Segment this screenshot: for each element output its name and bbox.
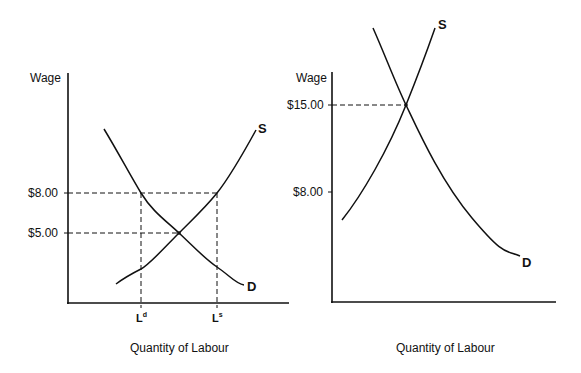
left-demand-curve <box>104 129 244 285</box>
left-x-axis-label: Quantity of Labour <box>130 341 229 355</box>
right-demand-curve <box>373 28 520 256</box>
right-tick-8: $8.00 <box>293 185 323 199</box>
left-demand-label: D <box>247 279 256 294</box>
left-ld-label: Ld <box>136 311 147 324</box>
left-supply-label: S <box>258 121 267 136</box>
right-x-axis-label: Quantity of Labour <box>396 341 495 355</box>
left-ls-label: Ls <box>212 311 223 324</box>
left-supply-curve <box>116 130 256 284</box>
right-supply-label: S <box>438 17 447 32</box>
left-tick-5: $5.00 <box>28 226 58 240</box>
right-tick-15: $15.00 <box>287 98 324 112</box>
right-chart: Wage $15.00 $8.00 S D Quantity of Labour <box>287 17 556 355</box>
right-supply-curve <box>342 28 435 220</box>
left-chart: Wage $8.00 $5.00 D S Ld Ls Quantity of L… <box>28 71 289 355</box>
left-equilibrium-point <box>177 231 181 235</box>
diagram-canvas: Wage $8.00 $5.00 D S Ld Ls Quantity of L… <box>0 0 581 373</box>
right-demand-label: D <box>522 255 531 270</box>
left-tick-8: $8.00 <box>28 186 58 200</box>
right-equilibrium-point <box>404 103 408 107</box>
right-y-axis-label: Wage <box>296 71 327 85</box>
left-y-axis-label: Wage <box>30 71 61 85</box>
